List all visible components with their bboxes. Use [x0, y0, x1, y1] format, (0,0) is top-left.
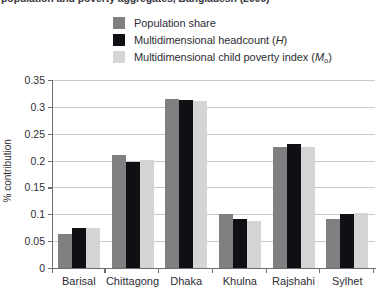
legend-item: Multidimensional child poverty index (Mo…	[113, 48, 332, 65]
bar-group	[213, 80, 267, 268]
legend-item: Population share	[113, 14, 332, 31]
legend-swatch	[113, 34, 125, 46]
legend-item: Multidimensional headcount (H)	[113, 31, 332, 48]
bar	[326, 219, 340, 268]
y-tick-label: 0	[39, 262, 45, 274]
x-tick-mark	[319, 268, 320, 273]
bar	[273, 147, 287, 268]
bar	[165, 99, 179, 268]
x-tick-mark	[52, 268, 53, 273]
bar-group	[320, 80, 374, 268]
bar	[179, 100, 193, 268]
bar	[340, 214, 354, 268]
bar	[247, 221, 261, 268]
bar-group	[267, 80, 321, 268]
x-axis-label: Khulna	[213, 275, 267, 287]
bar-group	[106, 80, 160, 268]
bar	[219, 214, 233, 268]
legend-label: Multidimensional headcount (H)	[134, 34, 287, 46]
x-axis-labels: BarisalChittagongDhakaKhulnaRajshahiSylh…	[52, 275, 374, 287]
bar-groups	[52, 80, 374, 268]
bar	[301, 147, 315, 268]
bar-group	[159, 80, 213, 268]
x-axis-label: Sylhet	[320, 275, 374, 287]
bar	[112, 155, 126, 268]
chart-title: population and poverty aggregates, Bangl…	[1, 0, 269, 4]
x-tick-mark	[104, 268, 105, 273]
bar	[233, 219, 247, 268]
y-tick-label: 0.05	[25, 235, 45, 247]
x-axis-line	[52, 268, 376, 269]
plot-area: % contribution 00.050.10.150.20.250.30.3…	[0, 72, 387, 303]
x-axis-label: Chittagong	[106, 275, 160, 287]
legend-swatch	[113, 51, 125, 63]
y-tick-label: 0.25	[25, 128, 45, 140]
y-tick-label: 0.15	[25, 181, 45, 193]
legend-label: Population share	[134, 17, 216, 29]
x-tick-mark	[212, 268, 213, 273]
chart-figure: population and poverty aggregates, Bangl…	[0, 0, 387, 303]
legend-label: Multidimensional child poverty index (Mo…	[134, 51, 332, 63]
x-tick-mark	[158, 268, 159, 273]
chart-title-strip: population and poverty aggregates, Bangl…	[0, 0, 387, 11]
x-tick-mark	[373, 268, 374, 273]
bar	[126, 162, 140, 268]
y-tick-label: 0.2	[30, 155, 45, 167]
bar	[86, 228, 100, 268]
x-axis-label: Barisal	[52, 275, 106, 287]
bar	[58, 234, 72, 268]
bar	[287, 144, 301, 268]
bar	[354, 213, 368, 268]
y-tick-label: 0.3	[30, 101, 45, 113]
legend-swatch	[113, 17, 125, 29]
x-axis-label: Dhaka	[159, 275, 213, 287]
y-axis-title: % contribution	[2, 189, 13, 203]
bar-group	[52, 80, 106, 268]
chart-legend: Population shareMultidimensional headcou…	[113, 14, 332, 65]
bar	[72, 228, 86, 268]
x-axis-label: Rajshahi	[267, 275, 321, 287]
bar	[140, 160, 154, 269]
bar	[193, 101, 207, 268]
y-tick-label: 0.35	[25, 74, 45, 86]
x-tick-mark	[266, 268, 267, 273]
y-tick-label: 0.1	[30, 208, 45, 220]
